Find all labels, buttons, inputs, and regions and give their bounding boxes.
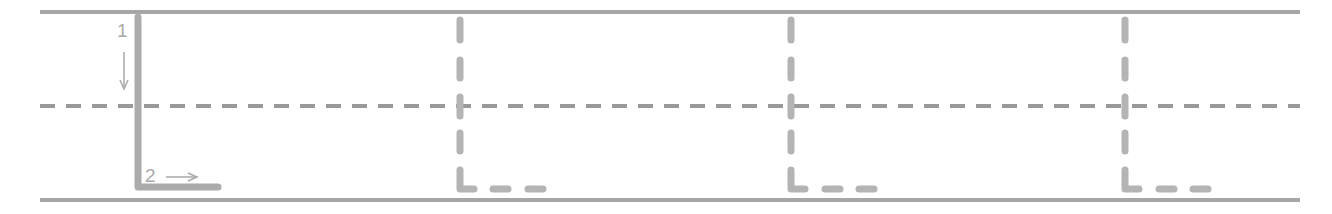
model-letter-l <box>138 17 218 187</box>
trace-letter-l-1 <box>460 20 543 189</box>
guide-lines <box>0 0 1332 214</box>
right-arrow-icon <box>166 173 197 181</box>
stroke-number-1: 1 <box>117 21 128 40</box>
stroke-number-2: 2 <box>145 166 156 185</box>
letter-l-practice-row: 1 2 <box>0 0 1332 214</box>
down-arrow-icon <box>120 52 128 89</box>
